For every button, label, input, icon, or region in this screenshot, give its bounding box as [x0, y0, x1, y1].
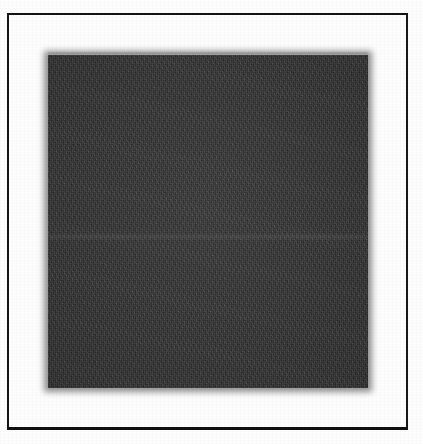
plate-grain-layer — [48, 55, 368, 388]
plate-grain-layer-secondary — [48, 55, 368, 388]
scanned-page — [0, 0, 423, 444]
plate-caption — [48, 55, 49, 56]
border-frame-label — [9, 15, 10, 16]
dark-square-plate — [48, 55, 368, 388]
plate-horizontal-seam — [48, 233, 368, 241]
plate-vignette — [48, 55, 368, 388]
